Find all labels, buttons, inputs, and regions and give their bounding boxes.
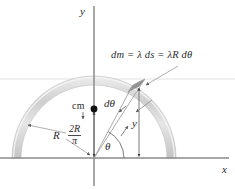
center-of-mass-dot xyxy=(91,106,98,113)
radius-label: R xyxy=(53,130,60,141)
diagram-canvas xyxy=(0,0,235,189)
cm-distance-fraction: 2R π xyxy=(68,124,81,146)
theta-label: θ xyxy=(105,141,110,152)
x-axis-label: x xyxy=(222,164,227,175)
radius-line-theta-plus-dtheta xyxy=(94,79,145,158)
center-of-mass-label: cm xyxy=(72,101,85,111)
radius-leader-to-ring xyxy=(28,125,66,133)
mass-element-leader xyxy=(146,66,178,85)
dtheta-label: dθ xyxy=(104,98,115,109)
y-axis-label: y xyxy=(80,6,85,17)
physics-diagram-semicircular-hoop: y x dm = λ ds = λR dθ cm 2R π R dθ θ y xyxy=(0,0,235,189)
cm-distance-denominator: π xyxy=(68,136,81,147)
height-label: y xyxy=(132,118,137,129)
wedge-lower-leader xyxy=(121,126,128,136)
mass-element-equation-label: dm = λ ds = λR dθ xyxy=(111,50,192,61)
cm-distance-numerator: 2R xyxy=(68,124,81,136)
